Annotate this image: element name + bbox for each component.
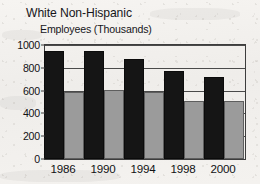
bar-2000-series-1 — [204, 77, 224, 159]
y-axis-tick-label: 600 — [23, 85, 40, 97]
x-axis-tick-label: 1990 — [91, 162, 116, 175]
y-axis-tick-label: 0 — [34, 153, 40, 165]
gridline — [45, 45, 245, 46]
y-axis-tick-mark — [41, 113, 45, 114]
y-axis-tick-label: 800 — [23, 62, 40, 74]
x-axis-tick-label: 1998 — [171, 162, 196, 175]
y-axis-title: Employees (Thousands) — [40, 23, 152, 35]
bar-1986-series-2 — [64, 92, 84, 159]
gridline — [45, 68, 245, 69]
bar-1994-series-2 — [144, 92, 164, 159]
chart-figure: White Non-Hispanic Employees (Thousands)… — [0, 0, 260, 184]
y-axis-tick-label: 1000 — [17, 39, 40, 51]
y-axis-tick-mark — [41, 45, 45, 46]
bar-1986-series-1 — [44, 51, 64, 159]
bar-1998-series-2 — [184, 101, 204, 159]
bar-1998-series-1 — [164, 71, 184, 159]
y-axis-tick-label: 200 — [23, 130, 40, 142]
plot-area: 02004006008001000 — [44, 44, 246, 160]
y-axis-tick-label: 400 — [23, 107, 40, 119]
y-axis-tick-mark — [41, 90, 45, 91]
x-axis-tick-label: 1986 — [51, 162, 76, 175]
bar-1990-series-2 — [104, 90, 124, 159]
chart-title: White Non-Hispanic — [26, 6, 132, 20]
plot-inner — [45, 45, 245, 159]
bar-1994-series-1 — [124, 59, 144, 159]
x-axis-tick-label: 1994 — [131, 162, 156, 175]
paper-smudge — [150, 8, 240, 20]
bar-1990-series-1 — [84, 51, 104, 159]
y-axis-tick-mark — [41, 136, 45, 137]
x-axis-tick-label: 2000 — [211, 162, 236, 175]
bar-2000-series-2 — [224, 101, 244, 159]
y-axis-tick-mark — [41, 67, 45, 68]
y-axis-tick-mark — [41, 159, 45, 160]
